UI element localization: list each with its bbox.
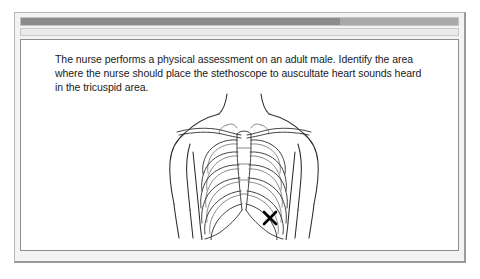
- tool-bar[interactable]: [20, 28, 459, 36]
- anterior-thorax-ribcage-diagram: [149, 92, 339, 240]
- content-panel: The nurse performs a physical assessment…: [20, 39, 459, 251]
- title-bar-track: [340, 18, 458, 25]
- tricuspid-area-marker: [264, 212, 276, 224]
- title-bar[interactable]: [20, 17, 459, 26]
- question-text: The nurse performs a physical assessment…: [55, 52, 429, 95]
- title-bar-fill: [21, 18, 340, 25]
- application-window: The nurse performs a physical assessment…: [14, 12, 466, 263]
